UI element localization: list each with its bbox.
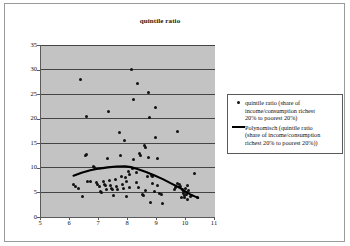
chart-title: quintile ratio [65, 17, 255, 25]
x-tick-label: 6 [67, 220, 70, 227]
legend-entry-trendline: Polynomisch (quintile ratio (share of in… [231, 124, 339, 147]
y-tick-label: 20 [21, 115, 37, 122]
legend-line: 20% to poorest 20%) [245, 114, 315, 122]
legend-line: richest 20% to poorest 20%)) [245, 139, 320, 147]
chart-legend: quintile ratio (share of income/consumpt… [227, 94, 343, 154]
chart-page: quintile ratio 05101520253035 567891011 … [0, 0, 350, 246]
y-axis-tick-labels: 05101520253035 [19, 45, 37, 217]
legend-key-marker [231, 99, 245, 104]
legend-label-scatter: quintile ratio (share of income/consumpt… [245, 99, 315, 122]
x-tick-label: 7 [96, 220, 99, 227]
legend-label-trendline: Polynomisch (quintile ratio (share of in… [245, 124, 320, 147]
line-marker-icon [232, 126, 245, 128]
y-tick-label: 5 [21, 189, 37, 196]
x-axis-tick-labels: 567891011 [40, 220, 215, 232]
dot-marker-icon [237, 101, 240, 104]
legend-key-line [231, 124, 245, 128]
x-tick-label: 8 [125, 220, 128, 227]
x-tick-label: 9 [154, 220, 157, 227]
y-tick-label: 10 [21, 164, 37, 171]
y-tick-label: 25 [21, 91, 37, 98]
plot-inner [41, 45, 215, 217]
legend-line: (share of income/consumption [245, 131, 320, 139]
legend-entry-scatter: quintile ratio (share of income/consumpt… [231, 99, 339, 122]
figure-frame: quintile ratio 05101520253035 567891011 … [4, 3, 345, 242]
trendline-svg [41, 45, 215, 217]
plot-area [40, 45, 215, 218]
polynomial-trendline [73, 166, 198, 197]
x-tick-label: 11 [211, 220, 217, 227]
y-tick-label: 30 [21, 66, 37, 73]
legend-line: income/consumption richest [245, 107, 315, 115]
x-tick-label: 10 [182, 220, 189, 227]
legend-line: quintile ratio (share of [245, 99, 315, 107]
y-tick-label: 0 [21, 214, 37, 221]
legend-line: Polynomisch (quintile ratio [245, 124, 320, 132]
y-tick-label: 35 [21, 42, 37, 49]
x-tick-label: 5 [38, 220, 41, 227]
y-tick-label: 15 [21, 140, 37, 147]
